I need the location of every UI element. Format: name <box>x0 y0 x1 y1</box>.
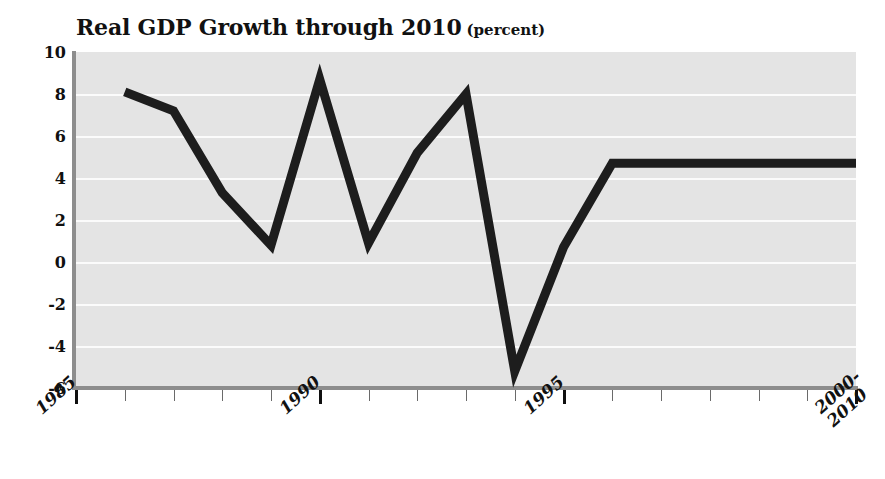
x-axis-minor-tick <box>174 390 175 401</box>
x-axis-ticks <box>76 390 856 404</box>
gdp-growth-chart: Real GDP Growth through 2010(percent) 10… <box>0 0 885 479</box>
x-axis-minor-tick <box>807 390 808 401</box>
y-axis-tick-label: 8 <box>22 85 66 104</box>
y-axis-tick-label: 10 <box>22 43 66 62</box>
y-axis-ticks: 1086420-2-4-6 <box>22 52 66 388</box>
chart-title-main: Real GDP Growth through 2010 <box>76 14 462 40</box>
series-polyline <box>125 79 856 371</box>
x-axis-minor-tick <box>661 390 662 401</box>
y-axis-tick-label: -4 <box>22 337 66 356</box>
y-axis-tick-label: 4 <box>22 169 66 188</box>
x-axis-minor-tick <box>710 390 711 401</box>
chart-title-units: (percent) <box>467 21 546 39</box>
y-axis-tick-label: 0 <box>22 253 66 272</box>
x-axis-minor-tick <box>222 390 223 401</box>
x-axis-minor-tick <box>612 390 613 401</box>
x-axis-minor-tick <box>369 390 370 401</box>
y-axis-tick-label: 6 <box>22 127 66 146</box>
x-axis-minor-tick <box>515 390 516 401</box>
y-axis-tick-label: 2 <box>22 211 66 230</box>
data-series-line <box>76 52 856 388</box>
chart-title: Real GDP Growth through 2010(percent) <box>76 16 545 38</box>
x-axis-minor-tick <box>466 390 467 401</box>
x-axis-minor-tick <box>271 390 272 401</box>
x-axis-major-tick <box>563 390 566 404</box>
x-axis-minor-tick <box>759 390 760 401</box>
x-axis-major-tick <box>319 390 322 404</box>
x-axis-minor-tick <box>417 390 418 401</box>
x-axis-minor-tick <box>125 390 126 401</box>
x-axis-major-tick <box>75 390 78 404</box>
y-axis-tick-label: -2 <box>22 295 66 314</box>
